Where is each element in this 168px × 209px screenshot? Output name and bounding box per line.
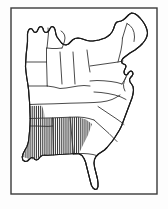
northern-mississippi-strip (30, 106, 45, 119)
wisconsin-michigan-line (47, 48, 62, 49)
eastern-us-map (0, 0, 168, 209)
map-figure (0, 0, 168, 209)
